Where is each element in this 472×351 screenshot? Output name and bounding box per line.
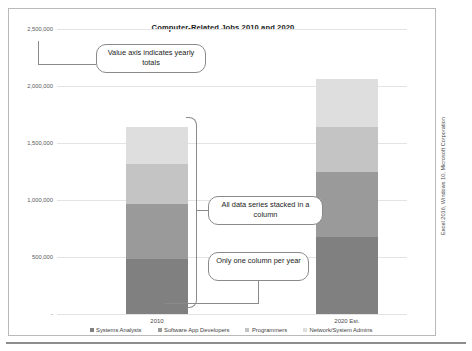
y-axis-tick-label: - [51, 311, 53, 317]
legend-item-label: Programmers [252, 327, 287, 333]
bar-segment[interactable] [126, 164, 188, 204]
legend-swatch-icon [90, 328, 94, 332]
figure-credit: Excel 2016, Windows 10, Microsoft Corpor… [440, 117, 446, 235]
callout-one-column: Only one column per year [208, 252, 309, 281]
callout-stacked-series: All data series stacked in a column [208, 196, 323, 225]
legend-item[interactable]: Systems Analysts [90, 327, 142, 333]
x-axis-category-label: 2010 [150, 318, 163, 324]
bar-segment[interactable] [316, 172, 378, 237]
y-axis-tick-label: 500,000 [32, 254, 53, 260]
column-2020-est-[interactable] [316, 29, 378, 314]
callout-value-axis: Value axis indicates yearly totals [96, 44, 206, 73]
legend-item[interactable]: Software App Developers [158, 327, 230, 333]
y-axis-tick-label: 2,500,000 [27, 26, 53, 32]
y-axis-tick-label: 1,500,000 [27, 140, 53, 146]
legend-swatch-icon [245, 328, 249, 332]
bar-segment[interactable] [126, 204, 188, 259]
callout-stacked-leader [196, 210, 208, 211]
chart-legend: Systems AnalystsSoftware App DevelopersP… [17, 327, 445, 333]
callout-value-axis-leader-horizontal [38, 64, 96, 65]
legend-item-label: Software App Developers [164, 327, 229, 333]
figure-container: Computer-Related Jobs 2010 and 2020 -500… [0, 0, 472, 351]
callout-value-axis-leader-vertical [38, 41, 39, 65]
legend-item-label: Systems Analysts [96, 327, 141, 333]
legend-swatch-icon [303, 328, 307, 332]
bar-segment[interactable] [126, 259, 188, 314]
y-axis-tick-label: 1,000,000 [27, 197, 53, 203]
legend-item-label: Network/System Admins [310, 327, 373, 333]
chart-frame: Computer-Related Jobs 2010 and 2020 -500… [8, 8, 436, 336]
callout-stacked-bracket [186, 117, 197, 308]
legend-swatch-icon [158, 328, 162, 332]
callout-one-column-leader-vertical [258, 281, 259, 304]
legend-item[interactable]: Programmers [245, 327, 287, 333]
bar-segment[interactable] [316, 237, 378, 314]
x-axis-category-label: 2020 Est. [334, 318, 359, 324]
bar-segment[interactable] [126, 127, 188, 164]
callout-one-column-leader-horizontal [165, 303, 258, 304]
bar-segment[interactable] [316, 127, 378, 172]
bar-segment[interactable] [316, 79, 378, 127]
y-axis-tick-label: 2,000,000 [27, 83, 53, 89]
figure-bottom-rule [6, 342, 466, 344]
gridline [57, 314, 407, 315]
legend-item[interactable]: Network/System Admins [303, 327, 372, 333]
